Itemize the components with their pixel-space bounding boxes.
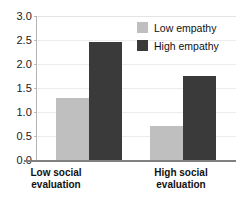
bar-high-social-high-empathy (183, 76, 216, 160)
y-tick-label: 0.5 (2, 130, 32, 142)
x-axis-label-line2: evaluation (131, 179, 231, 191)
y-tick-label: 3.0 (2, 10, 32, 22)
x-axis-label-line1: Low social (30, 167, 81, 178)
gridline (36, 64, 236, 65)
x-axis-label-line2: evaluation (6, 179, 106, 191)
legend-item-low-empathy: Low empathy (137, 20, 241, 35)
x-axis-line (24, 160, 236, 162)
legend: Low empathy High empathy (137, 20, 241, 56)
bar-high-social-low-empathy (150, 126, 183, 160)
legend-swatch-icon (137, 40, 148, 51)
bar-chart: 3.0 2.5 2.0 1.5 1.0 0.5 0.0 Low social e… (0, 0, 244, 205)
bar-low-social-low-empathy (56, 98, 89, 160)
y-tick-label: 2.0 (2, 58, 32, 70)
bar-low-social-high-empathy (89, 42, 122, 160)
gridline (36, 16, 236, 17)
legend-label: Low empathy (154, 22, 216, 34)
y-axis-line (36, 16, 37, 161)
legend-label: High empathy (154, 40, 219, 52)
x-axis-label-line1: High social (154, 167, 207, 178)
x-axis-label-low-social: Low social evaluation (6, 167, 106, 191)
y-tick-label: 2.5 (2, 34, 32, 46)
legend-item-high-empathy: High empathy (137, 38, 241, 53)
y-tick-label: 1.5 (2, 82, 32, 94)
x-axis-label-high-social: High social evaluation (131, 167, 231, 191)
y-tick-label: 1.0 (2, 106, 32, 118)
legend-swatch-icon (137, 22, 148, 33)
